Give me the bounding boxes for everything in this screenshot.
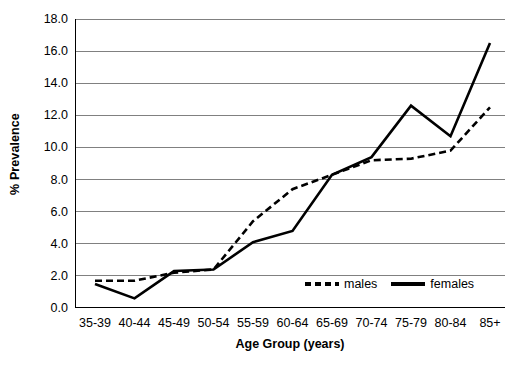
y-tick-label: 8.0 bbox=[51, 173, 68, 187]
legend-label-males: males bbox=[344, 277, 377, 291]
x-tick-label: 40-44 bbox=[119, 316, 151, 330]
series-line-males bbox=[95, 107, 490, 280]
y-tick-label: 18.0 bbox=[44, 12, 68, 26]
x-axis-title: Age Group (years) bbox=[75, 337, 505, 351]
y-tick-label: 12.0 bbox=[44, 108, 68, 122]
legend-item-males: males bbox=[305, 277, 377, 291]
y-tick-label: 16.0 bbox=[44, 44, 68, 58]
legend-swatch-solid-icon bbox=[391, 282, 425, 286]
x-tick-label: 45-49 bbox=[158, 316, 190, 330]
series-line-females bbox=[95, 43, 490, 298]
x-tick-label: 80-84 bbox=[435, 316, 467, 330]
x-tick-label: 60-64 bbox=[277, 316, 309, 330]
x-tick-label: 55-59 bbox=[237, 316, 269, 330]
x-tick-label: 75-79 bbox=[395, 316, 427, 330]
y-tick-label: 0.0 bbox=[51, 301, 68, 315]
x-axis-tick-labels: 35-3940-4445-4950-5455-5960-6465-6970-74… bbox=[75, 312, 505, 336]
x-tick-label: 65-69 bbox=[316, 316, 348, 330]
y-tick-label: 2.0 bbox=[51, 269, 68, 283]
y-axis-title-text: % Prevalence bbox=[8, 113, 22, 195]
y-axis-title: % Prevalence bbox=[2, 0, 28, 308]
axis-lines bbox=[75, 19, 505, 308]
y-axis-tick-labels: 0.02.04.06.08.010.012.014.016.018.0 bbox=[28, 0, 72, 330]
legend-label-females: females bbox=[430, 277, 474, 291]
legend-item-females: females bbox=[391, 277, 474, 291]
plot-area bbox=[75, 19, 505, 308]
series-lines bbox=[95, 43, 490, 298]
y-tick-label: 10.0 bbox=[44, 140, 68, 154]
y-tick-label: 6.0 bbox=[51, 205, 68, 219]
x-tick-label: 70-74 bbox=[356, 316, 388, 330]
legend-swatch-dashed-icon bbox=[305, 282, 339, 286]
y-tick-label: 14.0 bbox=[44, 76, 68, 90]
plot-svg bbox=[75, 19, 505, 308]
y-tick-label: 4.0 bbox=[51, 237, 68, 251]
x-tick-label: 50-54 bbox=[198, 316, 230, 330]
gridlines bbox=[75, 19, 505, 308]
x-tick-label: 35-39 bbox=[79, 316, 111, 330]
x-tick-label: 85+ bbox=[479, 316, 500, 330]
prevalence-line-chart: % Prevalence 0.02.04.06.08.010.012.014.0… bbox=[0, 0, 528, 368]
chart-legend: males females bbox=[305, 277, 474, 291]
